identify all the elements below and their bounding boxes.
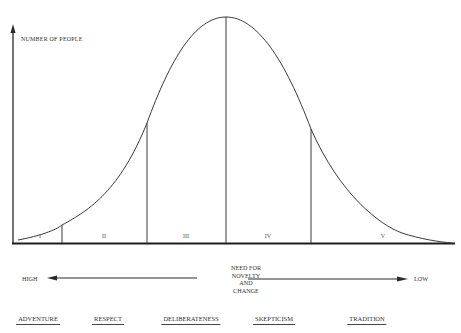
center-label-line: NEED FOR — [222, 264, 270, 272]
trait-skepticism: SKEPTICISM — [253, 315, 295, 325]
y-axis-arrow-icon — [11, 24, 16, 33]
center-label-line: CHANGE — [222, 287, 270, 295]
trait-deliberateness: DELIBERATENESS — [161, 315, 220, 325]
segment-label-v: V — [381, 233, 385, 239]
segment-label-ii: II — [102, 233, 106, 239]
y-axis-label: NUMBER OF PEOPLE — [21, 36, 83, 42]
center-label-line: AND — [222, 279, 270, 287]
low-label: LOW — [414, 275, 428, 282]
bell-curve — [18, 17, 452, 243]
trait-adventure: ADVENTURE — [16, 315, 60, 325]
center-label-line: NOVELTY — [222, 272, 270, 280]
need-for-novelty-label: NEED FOR NOVELTY AND CHANGE — [222, 264, 270, 294]
right-arrow-icon — [397, 277, 408, 282]
segment-label-iv: IV — [265, 233, 271, 239]
trait-tradition: TRADITION — [347, 315, 386, 325]
high-label: HIGH — [22, 275, 37, 282]
left-arrow-icon — [47, 276, 57, 281]
trait-respect: RESPECT — [92, 315, 124, 325]
segment-label-i: I — [39, 233, 41, 239]
segment-label-iii: III — [183, 233, 189, 239]
